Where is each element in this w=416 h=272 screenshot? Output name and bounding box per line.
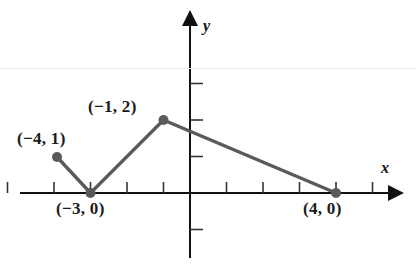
y-axis-arrowhead-icon	[182, 10, 198, 26]
y-axis-ticks	[190, 84, 203, 230]
data-point-neg4-1	[52, 152, 62, 162]
scan-artifact-line	[0, 68, 416, 69]
data-point-4-0	[331, 188, 341, 198]
data-point-neg3-0	[86, 188, 96, 198]
point-label-neg1-2: (−1, 2)	[88, 98, 137, 115]
point-label-neg4-1: (−4, 1)	[17, 130, 66, 147]
graph-figure: (−4, 1) (−3, 0) (−1, 2) (4, 0) x y	[0, 0, 416, 272]
data-point-neg1-2	[159, 115, 169, 125]
point-label-neg3-0: (−3, 0)	[56, 200, 105, 217]
x-axis-label: x	[381, 160, 389, 176]
y-axis-label: y	[203, 18, 210, 34]
point-label-4-0: (4, 0)	[303, 200, 342, 217]
x-axis-arrowhead-icon	[388, 185, 404, 201]
